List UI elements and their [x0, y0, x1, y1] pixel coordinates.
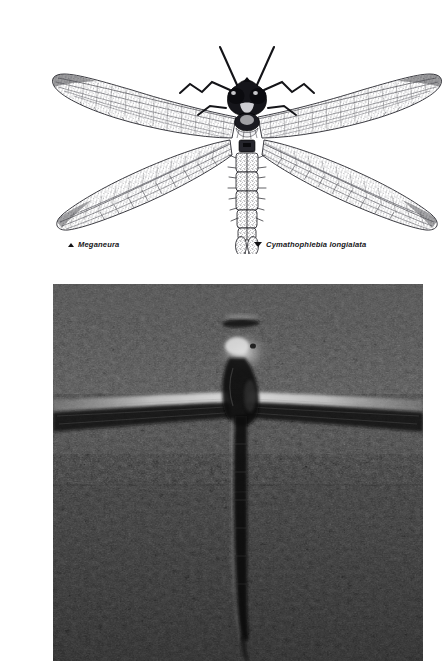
triangle-up-icon [68, 243, 74, 247]
fossil-photograph [53, 284, 423, 661]
photo-vignette [53, 284, 423, 661]
caption-cymathophlebia: Cymathophlebia longialata [254, 240, 366, 249]
caption-meganeura: Meganeura [68, 240, 119, 249]
dragonfly-illustration [40, 16, 447, 254]
caption-meganeura-label: Meganeura [78, 240, 119, 249]
caption-row: Meganeura Cymathophlebia longialata [0, 238, 413, 260]
triangle-down-icon [254, 242, 262, 247]
fossil-photograph-svg [53, 284, 423, 661]
caption-cymathophlebia-label: Cymathophlebia longialata [266, 240, 366, 249]
dragonfly-illustration-svg [40, 16, 447, 254]
